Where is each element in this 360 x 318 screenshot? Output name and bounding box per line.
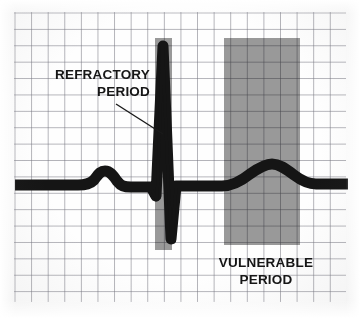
vulnerable-period-label: VULNERABLE PERIOD	[212, 254, 320, 289]
ecg-diagram-figure: REFRACTORY PERIOD VULNERABLE PERIOD	[0, 0, 360, 318]
refractory-period-label: REFRACTORY PERIOD	[22, 66, 150, 101]
